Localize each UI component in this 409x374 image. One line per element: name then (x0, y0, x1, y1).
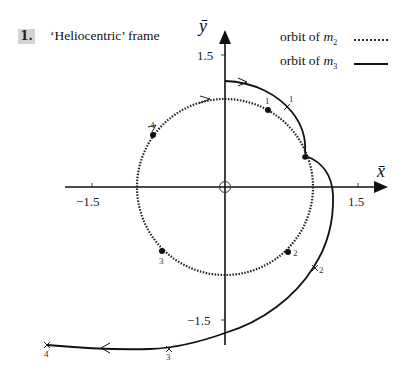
svg-text:1: 1 (289, 94, 294, 104)
y-axis-label: ȳ (197, 16, 208, 36)
svg-text:4: 4 (150, 120, 155, 130)
svg-text:3: 3 (166, 352, 171, 362)
svg-text:2: 2 (293, 248, 298, 258)
orbit-diagram: −1.5 1.5 1.5 −1.5 x̄ ȳ 1 2 3 4 1 2 3 4 (0, 0, 409, 374)
m3-orbit (47, 81, 333, 349)
x-tick-pos: 1.5 (348, 194, 364, 209)
y-tick-neg: −1.5 (187, 313, 211, 328)
y-axis-arrow-icon (219, 30, 231, 44)
x-axis-label: x̄ (376, 161, 385, 181)
svg-text:4: 4 (44, 349, 49, 359)
svg-text:3: 3 (159, 256, 164, 266)
x-tick-neg: −1.5 (76, 194, 100, 209)
x-axis-arrow-icon (374, 181, 388, 193)
svg-text:2: 2 (319, 265, 324, 275)
svg-text:1: 1 (265, 96, 270, 106)
y-tick-pos: 1.5 (197, 48, 213, 63)
